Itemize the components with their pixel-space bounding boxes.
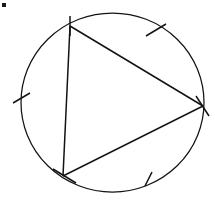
triangle-side-top-right [70, 26, 203, 106]
arc-tick-mark-upper-right [146, 24, 166, 36]
triangle-side-right-bottom [63, 106, 203, 176]
corner-speck-mark [2, 3, 6, 7]
geometry-figure: A circle containing an inscribed triangl… [0, 0, 215, 201]
figure-canvas [0, 0, 215, 201]
triangle-side-left [63, 26, 70, 176]
vertex-tick-mark-right [196, 96, 209, 116]
circumscribed-circle [21, 13, 204, 192]
